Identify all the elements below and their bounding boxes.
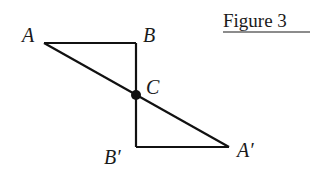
label-A-prime: A′: [235, 139, 254, 161]
label-B-prime: B′: [104, 146, 121, 168]
label-B: B: [143, 24, 155, 46]
geometry-figure: Figure 3 A B C B′ A′: [0, 0, 324, 172]
point-C-dot: [131, 90, 141, 100]
label-C: C: [146, 76, 160, 98]
label-A: A: [20, 24, 35, 46]
figure-title: Figure 3: [223, 10, 287, 31]
